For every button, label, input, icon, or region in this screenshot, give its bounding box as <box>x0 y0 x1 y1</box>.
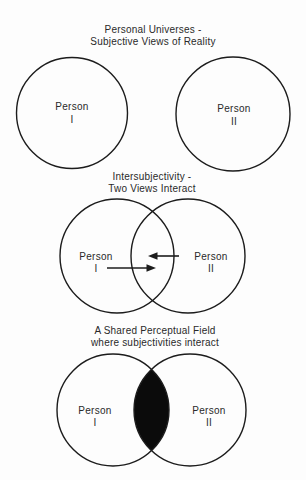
section2-person1-label-line1: Person <box>79 251 113 262</box>
section1-title-line2: Subjective Views of Reality <box>90 36 215 47</box>
section1-person2-label-line1: Person <box>217 103 251 114</box>
section3-person2-label-line1: Person <box>192 405 226 416</box>
section3-person1-label-line2: I <box>93 417 96 428</box>
section2-title-line2: Two Views Interact <box>108 183 195 194</box>
section1-person1-label-line2: I <box>70 114 73 125</box>
section3-title-line2: where subjectivities interact <box>90 337 219 348</box>
section3-person2-label-line2: II <box>206 417 212 428</box>
section3-title-line1: A Shared Perceptual Field <box>94 325 215 336</box>
section3-person1-label-line1: Person <box>78 405 112 416</box>
figure-canvas: Personal Universes - Subjective Views of… <box>0 0 306 480</box>
section2-person2-label-line1: Person <box>194 251 228 262</box>
section2-person2-label-line2: II <box>208 263 214 274</box>
section1-title-line1: Personal Universes - <box>105 24 202 35</box>
section1-person1-label-line1: Person <box>55 101 89 112</box>
section2-person1-label-line2: I <box>94 263 97 274</box>
section1-person2-label-line2: II <box>231 116 237 127</box>
section2-title-line1: Intersubjectivity - <box>113 171 192 182</box>
